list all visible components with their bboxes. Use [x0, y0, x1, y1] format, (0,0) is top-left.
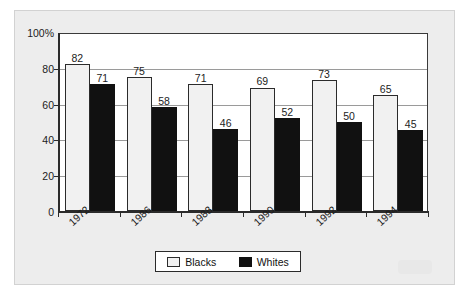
x-tick-mark: [243, 213, 244, 217]
chart-figure: 100%806040200 827175587146695273506545 1…: [0, 0, 470, 296]
y-tick-label: 20: [2, 171, 54, 181]
bar-value-label: 58: [148, 96, 181, 107]
bar-whites-1992: [337, 122, 362, 212]
x-axis: 197219861988199019921994: [58, 213, 429, 255]
legend-entry-blacks: Blacks: [167, 256, 216, 268]
bar-value-label: 65: [369, 84, 402, 95]
plot-area: 827175587146695273506545: [58, 33, 428, 212]
bar-value-label: 75: [123, 66, 156, 77]
bar-blacks-1992: [312, 80, 337, 211]
bar-value-label: 71: [86, 73, 119, 84]
bar-value-label: 73: [308, 69, 341, 80]
bar-whites-1988: [213, 129, 238, 211]
x-tick-mark: [428, 213, 429, 217]
bar-value-label: 69: [246, 76, 279, 87]
bar-value-label: 71: [184, 73, 217, 84]
gridline: [59, 69, 427, 70]
x-tick-mark: [305, 213, 306, 217]
bar-whites-1990: [275, 118, 300, 211]
light-swatch-icon: [167, 257, 180, 267]
bar-value-label: 82: [61, 53, 94, 64]
x-tick-mark: [181, 213, 182, 217]
x-tick-mark: [58, 213, 59, 217]
bar-blacks-1988: [188, 84, 213, 211]
bar-value-label: 45: [394, 119, 427, 130]
y-tick-label: 100%: [2, 28, 54, 38]
legend-label: Whites: [257, 256, 289, 268]
bar-blacks-1972: [65, 64, 90, 211]
bar-value-label: 52: [271, 107, 304, 118]
dark-swatch-icon: [239, 257, 252, 267]
legend-label: Blacks: [185, 256, 216, 268]
y-tick-label: 0: [2, 207, 54, 217]
bar-blacks-1994: [373, 95, 398, 211]
y-axis-line: [58, 33, 60, 213]
bar-whites-1994: [398, 130, 423, 211]
bar-whites-1972: [90, 84, 115, 211]
bar-value-label: 46: [209, 118, 242, 129]
chart-legend: BlacksWhites: [155, 251, 301, 272]
y-tick-label: 40: [2, 135, 54, 145]
y-tick-label: 60: [2, 100, 54, 110]
paper-watermark: [398, 260, 432, 274]
x-tick-mark: [366, 213, 367, 217]
bar-value-label: 50: [333, 111, 366, 122]
bar-whites-1986: [152, 107, 177, 211]
x-tick-mark: [120, 213, 121, 217]
y-tick-label: 80: [2, 64, 54, 74]
legend-entry-whites: Whites: [239, 256, 289, 268]
y-axis: 100%806040200: [0, 33, 54, 212]
